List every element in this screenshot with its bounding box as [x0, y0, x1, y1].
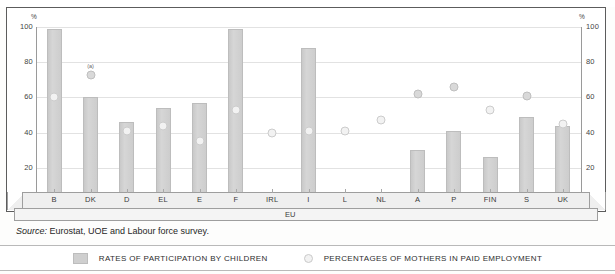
dot-p — [449, 82, 458, 91]
y-axis-tick-label: 100 — [13, 22, 33, 31]
category-tick — [91, 189, 92, 193]
y-axis-tick-label: 20 — [586, 163, 606, 172]
dot-f — [231, 105, 240, 114]
category-label-nl: NL — [376, 195, 386, 204]
y-axis-tick-label: 60 — [13, 92, 33, 101]
category-label-f: F — [233, 195, 238, 204]
y-axis-unit-left: % — [31, 13, 37, 20]
source-note: Source: Eurostat, UOE and Labour force s… — [16, 226, 209, 236]
top-caption-strip — [0, 0, 615, 7]
legend-dots-label: PERCENTAGES OF MOTHERS IN PAID EMPLOYMEN… — [324, 254, 543, 263]
category-tick — [309, 189, 310, 193]
dot-nl — [377, 116, 386, 125]
category-label-e: E — [197, 195, 202, 204]
dot-a — [413, 89, 422, 98]
category-tick — [563, 189, 564, 193]
bar-b — [47, 29, 62, 203]
bar-f — [228, 29, 243, 203]
y-axis-unit-right: % — [579, 13, 585, 20]
plot-panel: % % 20406080100 20406080100 (a)N/A — [6, 7, 606, 212]
y-axis-tick-label: 20 — [13, 163, 33, 172]
group-label-eu: EU — [285, 210, 296, 219]
category-label-strip: BDKDELEFIRLILNLAPFINSUK — [22, 192, 590, 209]
category-tick — [418, 189, 419, 193]
category-tick — [127, 189, 128, 193]
y-axis-tick-label: 100 — [586, 22, 606, 31]
category-label-p: P — [451, 195, 456, 204]
legend-bar-swatch — [73, 253, 88, 264]
category-tick — [381, 189, 382, 193]
category-tick — [345, 189, 346, 193]
category-label-irl: IRL — [266, 195, 278, 204]
category-label-d: D — [124, 195, 130, 204]
chart-legend: RATES OF PARTICIPATION BY CHILDREN PERCE… — [0, 245, 615, 271]
category-tick — [236, 189, 237, 193]
dot-d — [122, 126, 131, 135]
legend-dot-swatch — [304, 254, 313, 263]
category-label-s: S — [524, 195, 529, 204]
bar-dk — [83, 97, 98, 203]
y-axis-tick-label: 40 — [13, 128, 33, 137]
axis-line-right — [581, 27, 582, 204]
y-axis-tick-label: 40 — [586, 128, 606, 137]
source-prefix: Source: — [16, 226, 47, 236]
y-axis-tick-label: 80 — [13, 57, 33, 66]
category-tick — [454, 189, 455, 193]
group-label-strip: EU — [14, 208, 598, 221]
dot-i — [304, 126, 313, 135]
dot-irl — [268, 128, 277, 137]
y-axis-tick-label: 60 — [586, 92, 606, 101]
plot-area: (a)N/A — [36, 27, 581, 203]
category-axis-base: BDKDELEFIRLILNLAPFINSUK EU — [6, 192, 606, 225]
category-label-dk: DK — [85, 195, 96, 204]
bar-e — [192, 103, 207, 203]
category-label-uk: UK — [557, 195, 568, 204]
dot-b — [50, 93, 59, 102]
category-tick — [163, 189, 164, 193]
footnote-marker: (a) — [87, 63, 94, 69]
category-tick — [490, 189, 491, 193]
category-label-b: B — [52, 195, 57, 204]
y-axis-tick-label: 80 — [586, 57, 606, 66]
category-label-i: I — [307, 195, 309, 204]
legend-bars-label: RATES OF PARTICIPATION BY CHILDREN — [99, 254, 268, 263]
category-tick — [54, 189, 55, 193]
chart-figure: % % 20406080100 20406080100 (a)N/A BDKDE… — [0, 0, 615, 274]
dot-s — [522, 91, 531, 100]
dot-uk — [558, 119, 567, 128]
dot-el — [159, 121, 168, 130]
category-tick — [272, 189, 273, 193]
dot-l — [340, 126, 349, 135]
category-label-l: L — [343, 195, 347, 204]
category-label-el: EL — [158, 195, 168, 204]
dot-fin — [486, 105, 495, 114]
category-tick — [200, 189, 201, 193]
category-tick — [527, 189, 528, 193]
category-label-fin: FIN — [484, 195, 497, 204]
source-text: Eurostat, UOE and Labour force survey. — [47, 226, 209, 236]
category-label-a: A — [415, 195, 420, 204]
dot-e — [195, 137, 204, 146]
dot-dk — [86, 70, 95, 79]
